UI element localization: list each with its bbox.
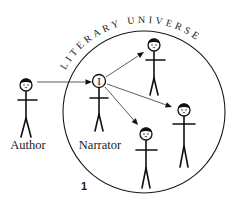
- eye-icon: [155, 44, 156, 45]
- figure-right-leg: [99, 114, 103, 131]
- figure-left-leg: [142, 168, 146, 188]
- eye-icon: [151, 44, 152, 45]
- eye-icon: [143, 133, 144, 134]
- figure-right-leg: [184, 146, 188, 167]
- stick-figure-narrator: INarrator: [79, 75, 122, 153]
- arrow-shaft: [106, 56, 139, 77]
- figure-left-leg: [150, 78, 154, 95]
- figure-right-leg: [154, 78, 158, 95]
- figure-left-leg: [95, 114, 99, 131]
- eye-icon: [23, 84, 24, 85]
- arrow-narrator-to-character-bottom: [105, 87, 138, 125]
- arrow-narrator-to-character-right: [107, 84, 172, 107]
- eye-icon: [27, 84, 28, 85]
- figure-left-leg: [21, 118, 26, 137]
- stick-figure-character-top: [146, 39, 165, 96]
- eye-icon: [181, 109, 182, 110]
- stick-figure-character-bottom: [136, 128, 157, 189]
- eye-icon: [185, 109, 186, 110]
- arrow-narrator-to-character-top: [106, 52, 144, 77]
- figure-left-leg: [180, 146, 184, 167]
- page-number: 1: [81, 180, 87, 192]
- arrowhead-icon: [86, 79, 93, 85]
- figures-layer: AuthorINarrator: [10, 39, 195, 189]
- stick-figure-character-right: [173, 104, 195, 168]
- arrowhead-icon: [165, 102, 172, 107]
- literary-universe-circle: [63, 31, 225, 193]
- arrowhead-icon: [137, 52, 144, 58]
- eye-icon: [147, 133, 148, 134]
- figure-label-author: Author: [10, 138, 46, 152]
- stick-figure-author: Author: [10, 79, 46, 153]
- figure-right-leg: [26, 118, 31, 137]
- figure-right-leg: [146, 168, 150, 188]
- figure-label-narrator: Narrator: [79, 138, 122, 152]
- narrator-i-glyph: I: [97, 75, 101, 87]
- arrow-author-to-narrator: [37, 79, 92, 85]
- literary-universe-diagram: LITERARY UNIVERSE AuthorINarrator 1: [0, 0, 238, 205]
